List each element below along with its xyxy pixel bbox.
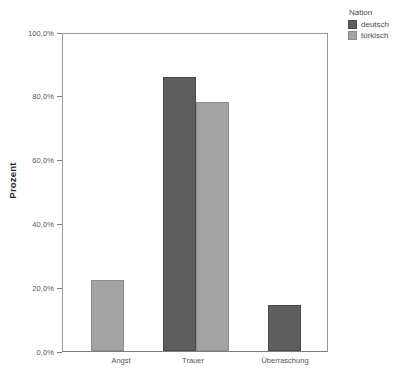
x-axis: Angst Trauer Überraschung	[62, 356, 328, 372]
bar-trauer-deutsch	[163, 77, 196, 351]
x-axis-tick-label: Angst	[111, 356, 130, 365]
bar-angst-türkisch	[91, 280, 124, 351]
y-axis-tick-label: 40,0%	[32, 220, 54, 229]
legend-swatch-icon	[348, 20, 357, 29]
legend-item-tuerkisch[interactable]: türkisch	[348, 31, 414, 40]
chart-caption	[62, 378, 328, 389]
legend-item-label: deutsch	[361, 20, 389, 29]
legend-item-deutsch[interactable]: deutsch	[348, 20, 414, 29]
bar-überraschung-deutsch	[268, 305, 301, 351]
y-axis-tick-label: 80,0%	[32, 92, 54, 101]
plot-area	[62, 33, 328, 352]
y-axis-tick-label: 0,0%	[37, 348, 55, 357]
y-axis-tick-label: 60,0%	[32, 156, 54, 165]
bar-chart: Prozent 100,0% 80,0% 60,0% 40,0% 20,0% 0…	[0, 0, 416, 389]
y-axis-tick-label: 20,0%	[32, 284, 54, 293]
bar-trauer-türkisch	[196, 102, 229, 351]
y-axis-tick-label: 100,0%	[28, 29, 54, 38]
legend-item-label: türkisch	[361, 31, 389, 40]
legend-swatch-icon	[348, 31, 357, 40]
legend: Nation deutsch türkisch	[348, 8, 414, 42]
x-axis-tick-label: Überraschung	[261, 356, 308, 365]
y-axis: 100,0% 80,0% 60,0% 40,0% 20,0% 0,0%	[0, 0, 62, 389]
legend-title: Nation	[348, 8, 414, 17]
x-axis-tick-label: Trauer	[182, 356, 204, 365]
bars-layer	[63, 34, 327, 351]
